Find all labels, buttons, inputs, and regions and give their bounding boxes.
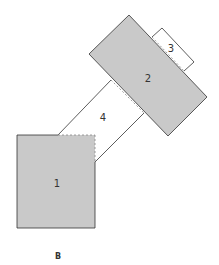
box-1-label: 1 [54, 178, 60, 189]
diagram-caption: B [55, 252, 61, 261]
diagram-canvas: 4 3 2 1 B [0, 0, 219, 265]
box-1: 1 [17, 135, 95, 228]
box-2-label: 2 [145, 73, 151, 84]
box-3-label: 3 [168, 43, 174, 54]
box-4-label: 4 [100, 112, 106, 123]
box-2: 2 [89, 15, 207, 136]
